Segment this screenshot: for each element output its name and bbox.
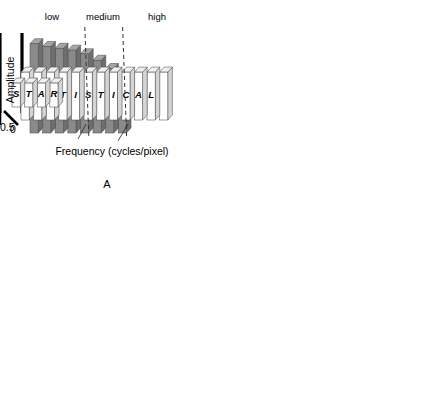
bar-series-star: RATS [12, 78, 63, 107]
panel-b [214, 0, 428, 201]
y-axis-title: Amplitude [4, 57, 16, 104]
svg-text:A: A [37, 88, 45, 99]
band-label-low: low [45, 11, 59, 22]
band-label-medium: medium [86, 11, 120, 22]
panel-letter: A [103, 178, 111, 190]
x-axis-title: Frequency (cycles/pixel) [55, 145, 168, 157]
panel-a-plot: LANGISLACITSITATSRATSlowmediumhigh00.5Fr… [0, 0, 214, 201]
svg-text:I: I [112, 89, 115, 100]
x-tick-max: 0.5 [0, 121, 15, 133]
panel-d [214, 201, 428, 402]
panel-a: LANGISLACITSITATSRATSlowmediumhigh00.5Fr… [0, 0, 214, 201]
band-label-high: high [148, 11, 166, 22]
svg-text:L: L [148, 89, 154, 100]
svg-text:I: I [74, 89, 77, 100]
svg-text:A: A [134, 89, 142, 100]
svg-text:R: R [50, 88, 57, 99]
figure-root: LANGISLACITSITATSRATSlowmediumhigh00.5Fr… [0, 0, 428, 403]
svg-text:S: S [85, 89, 92, 100]
svg-text:C: C [122, 89, 129, 100]
panel-c [0, 201, 214, 402]
panel-b-plot [214, 0, 428, 201]
